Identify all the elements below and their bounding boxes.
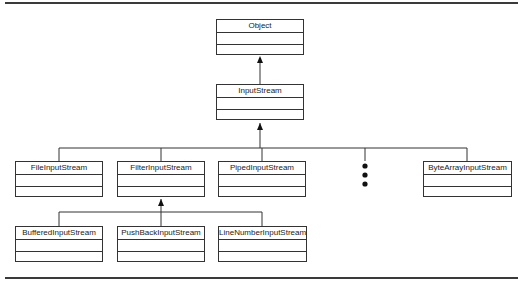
class-line-number-input-stream: LineNumberInputStream <box>218 226 307 262</box>
operations-compartment <box>219 187 305 198</box>
class-name: ByteArrayInputStream <box>424 162 511 175</box>
class-name: PushBackInputStream <box>118 227 204 240</box>
class-object: Object <box>216 19 304 55</box>
attributes-compartment <box>219 175 305 187</box>
class-filter-input-stream: FilterInputStream <box>117 161 205 197</box>
bottom-rule <box>5 277 518 279</box>
class-buffered-input-stream: BufferedInputStream <box>15 226 103 262</box>
operations-compartment <box>219 252 306 263</box>
attributes-compartment <box>118 240 204 252</box>
class-name: InputStream <box>217 85 303 98</box>
attributes-compartment <box>424 175 511 187</box>
class-name: Object <box>217 20 303 33</box>
class-name: LineNumberInputStream <box>219 227 306 240</box>
class-name: FilterInputStream <box>118 162 204 175</box>
operations-compartment <box>16 252 102 263</box>
class-name: BufferedInputStream <box>16 227 102 240</box>
class-file-input-stream: FileInputStream <box>15 161 103 197</box>
class-byte-array-input-stream: ByteArrayInputStream <box>423 161 512 197</box>
class-push-back-input-stream: PushBackInputStream <box>117 226 205 262</box>
operations-compartment <box>217 45 303 56</box>
ellipsis-dots <box>362 163 367 186</box>
attributes-compartment <box>16 240 102 252</box>
operations-compartment <box>118 187 204 198</box>
attributes-compartment <box>16 175 102 187</box>
attributes-compartment <box>118 175 204 187</box>
operations-compartment <box>424 187 511 198</box>
operations-compartment <box>16 187 102 198</box>
operations-compartment <box>118 252 204 263</box>
class-name: PipedInputStream <box>219 162 305 175</box>
class-name: FileInputStream <box>16 162 102 175</box>
attributes-compartment <box>217 33 303 45</box>
class-piped-input-stream: PipedInputStream <box>218 161 306 197</box>
class-input-stream: InputStream <box>216 84 304 120</box>
attributes-compartment <box>219 240 306 252</box>
attributes-compartment <box>217 98 303 110</box>
operations-compartment <box>217 110 303 121</box>
